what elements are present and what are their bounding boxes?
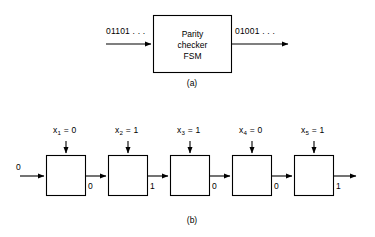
stage-input-sub-3: 3 — [181, 129, 185, 136]
stage-input-sub-1: 1 — [57, 129, 61, 136]
caption-a: (a) — [162, 79, 222, 88]
stage-output-bit-2: 1 — [150, 182, 155, 191]
stage-box-5 — [295, 156, 334, 196]
stage-output-bit-4: 0 — [274, 182, 279, 191]
stage-input-label-5: x5 = 1 — [301, 126, 324, 135]
part-b-artwork — [20, 141, 356, 196]
stage-box-4 — [233, 156, 272, 196]
parity-checker-line-3: FSM — [153, 51, 232, 62]
stage-input-sub-2: 2 — [119, 129, 123, 136]
parity-checker-line-2: checker — [153, 40, 232, 51]
stage-input-label-4: x4 = 0 — [239, 126, 262, 135]
figure-root: 01101 . . . Parity checker FSM 01001 . .… — [0, 0, 375, 237]
stage-output-bit-5: 1 — [336, 182, 341, 191]
stage-box-3 — [171, 156, 210, 196]
stage-input-eq-1: = 0 — [64, 125, 77, 135]
stage-output-bit-1: 0 — [88, 182, 93, 191]
parity-checker-line-1: Parity — [153, 29, 232, 40]
stage-input-eq-5: = 1 — [312, 125, 325, 135]
stage-input-eq-4: = 0 — [250, 125, 263, 135]
stage-box-1 — [47, 156, 86, 196]
stage-input-label-1: x1 = 0 — [53, 126, 76, 135]
stage-output-bit-3: 0 — [212, 182, 217, 191]
stage-input-label-3: x3 = 1 — [177, 126, 200, 135]
part-a-output-label: 01001 . . . — [235, 27, 275, 36]
stage-input-eq-3: = 1 — [188, 125, 201, 135]
stage-input-sub-4: 4 — [243, 129, 247, 136]
stage-input-label-2: x2 = 1 — [115, 126, 138, 135]
stage-input-sub-5: 5 — [305, 129, 309, 136]
parity-checker-box-label: Parity checker FSM — [153, 29, 232, 62]
stage-box-2 — [109, 156, 148, 196]
caption-b: (b) — [162, 216, 222, 225]
part-a-input-label: 01101 . . . — [106, 27, 145, 36]
initial-state-label: 0 — [16, 163, 21, 172]
stage-input-eq-2: = 1 — [126, 125, 139, 135]
